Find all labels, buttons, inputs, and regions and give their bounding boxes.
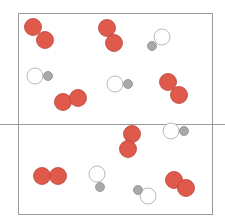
- red-atom-icon: [178, 180, 195, 197]
- gray-atom-icon: [148, 42, 157, 51]
- white-gray-molecule: [163, 123, 189, 139]
- white-gray-molecule: [134, 186, 157, 205]
- white-gray-molecule: [27, 68, 53, 84]
- white-atom-icon: [89, 166, 105, 182]
- red-atom-icon: [34, 168, 51, 185]
- red-atom-icon: [171, 87, 188, 104]
- gray-atom-icon: [96, 183, 105, 192]
- red-atom-icon: [70, 90, 87, 107]
- white-gray-molecule: [89, 166, 105, 192]
- gray-atom-icon: [180, 127, 189, 136]
- red-atom-icon: [55, 94, 72, 111]
- white-atom-icon: [107, 76, 123, 92]
- white-atom-icon: [163, 123, 179, 139]
- red-atom-icon: [99, 20, 116, 37]
- red-atom-icon: [120, 141, 137, 158]
- white-atom-icon: [27, 68, 43, 84]
- white-atom-icon: [154, 29, 170, 45]
- red-diatomic-molecule: [55, 90, 87, 111]
- red-diatomic-molecule: [160, 74, 188, 104]
- molecules-group: [25, 19, 195, 205]
- red-atom-icon: [50, 168, 67, 185]
- white-gray-molecule: [107, 76, 133, 92]
- gray-atom-icon: [134, 186, 143, 195]
- red-diatomic-molecule: [34, 168, 67, 185]
- red-atom-icon: [124, 126, 141, 143]
- gray-atom-icon: [124, 80, 133, 89]
- red-diatomic-molecule: [166, 172, 195, 197]
- red-atom-icon: [25, 19, 42, 36]
- red-diatomic-molecule: [120, 126, 141, 158]
- red-atom-icon: [106, 35, 123, 52]
- molecule-diagram: [0, 0, 225, 220]
- red-diatomic-molecule: [99, 20, 123, 52]
- red-atom-icon: [37, 32, 54, 49]
- white-gray-molecule: [148, 29, 171, 51]
- gray-atom-icon: [44, 72, 53, 81]
- red-diatomic-molecule: [25, 19, 54, 49]
